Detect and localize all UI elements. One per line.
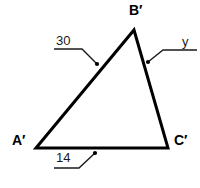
triangle-diagram: B′ A′ C′ 30 y 14 (0, 0, 200, 188)
leader-line-side-ab (54, 49, 97, 64)
side-length-label-bc: y (182, 35, 189, 48)
side-length-label-ac: 14 (56, 151, 70, 164)
leader-line-side-bc (148, 50, 197, 62)
leader-dot-side-bc (146, 60, 150, 64)
leader-dot-side-ab (95, 62, 99, 66)
leader-dot-side-ac (93, 151, 97, 155)
vertex-label-b-prime: B′ (129, 3, 142, 17)
vertex-label-c-prime: C′ (174, 133, 187, 147)
vertex-label-a-prime: A′ (12, 133, 25, 147)
side-length-label-ab: 30 (56, 34, 70, 47)
diagram-canvas (0, 0, 200, 188)
